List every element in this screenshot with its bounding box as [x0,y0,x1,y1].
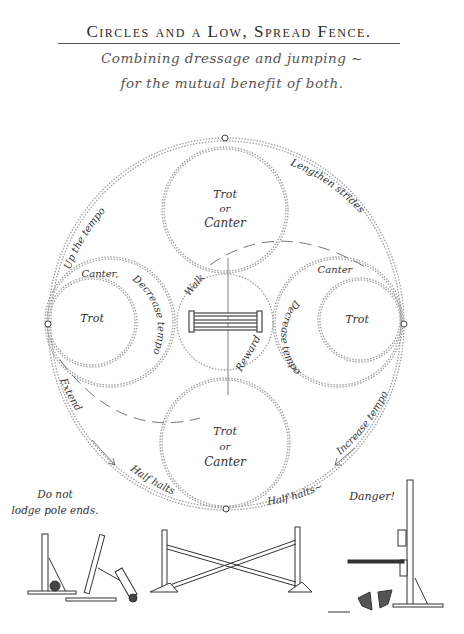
spread-fence-poles [189,311,262,332]
marker-top [222,135,228,141]
right-trot: Trot [345,313,369,326]
caption-do-not: Do not [36,488,73,500]
marker-right [401,321,407,327]
bottom-trot: Trot [213,425,237,438]
top-or: or [220,203,232,214]
left-trot: Trot [80,312,104,325]
marker-left [45,321,51,327]
top-canter: Canter [204,216,247,230]
bottom-or: or [220,441,232,452]
label-decrease-left: Decrease tempo [130,272,167,356]
right-canter: Canter [318,264,354,275]
marker-bottom [223,506,229,512]
illustration-crossed-poles [150,527,312,592]
label-lengthen: Lengthen strides [288,156,367,215]
label-half-halts-left: Half halts [128,462,177,496]
caption-lodge: lodge pole ends. [11,504,98,516]
bottom-canter: Canter [204,455,247,469]
label-increase-tempo: Increase tempo [333,389,389,457]
illustration-lodged-poles [28,534,137,602]
arrow-extend [92,440,115,465]
reward-label: Reward [233,334,263,374]
label-extend: Extend [58,376,84,413]
walk-label: Walk [182,272,206,298]
dashed-route [0,0,370,545]
arena-diagram: Trot or Canter Trot or Canter Trot Cante… [0,0,464,634]
left-canter: Canter, [82,268,119,279]
label-decrease-right: Decrease tempo [279,298,303,377]
top-trot: Trot [213,188,237,201]
caption-danger: Danger! [348,490,395,503]
